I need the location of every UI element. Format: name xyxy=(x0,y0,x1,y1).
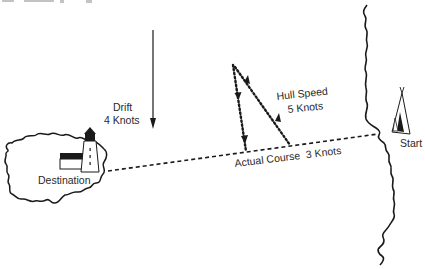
triangle-arrowheads-icon xyxy=(235,75,282,144)
actual-course-label: Actual Course 3 Knots xyxy=(234,144,342,169)
destination-label: Destination xyxy=(38,174,91,186)
drift-label: Drift xyxy=(113,101,132,113)
vector-diagram: Drift 4 Knots Hull Speed 5 Knots Actual … xyxy=(0,0,425,269)
vector-triangle xyxy=(233,65,290,151)
lighthouse-icon xyxy=(81,127,99,172)
start-label: Start xyxy=(400,137,422,149)
hull-speed-value: 5 Knots xyxy=(287,99,324,115)
tent-icon xyxy=(392,87,410,134)
drift-arrow-icon xyxy=(150,30,156,129)
clipped-caption-fragment xyxy=(2,0,92,3)
drift-speed-label: 4 Knots xyxy=(104,114,140,126)
